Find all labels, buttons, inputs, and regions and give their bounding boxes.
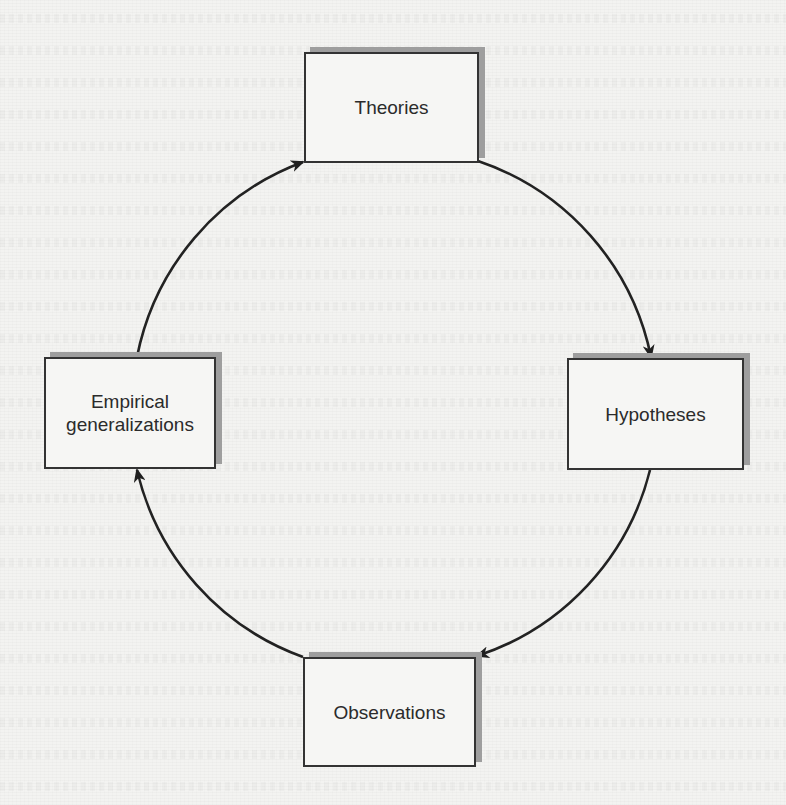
node-empirical-generalizations: Empirical generalizations <box>44 357 216 469</box>
arrow-empirical-to-theories <box>137 162 303 357</box>
node-hypotheses: Hypotheses <box>567 358 744 470</box>
node-theories-label: Theories <box>349 96 435 119</box>
node-observations: Observations <box>303 657 476 767</box>
arrow-hypotheses-to-observations <box>477 470 650 656</box>
node-theories: Theories <box>304 52 479 163</box>
node-hypotheses-label: Hypotheses <box>599 403 711 426</box>
node-empirical-label-line1: Empirical <box>85 390 175 413</box>
node-empirical-label-line2: generalizations <box>60 413 200 436</box>
arrow-theories-to-hypotheses <box>478 161 651 357</box>
arrow-observations-to-empirical <box>137 470 303 657</box>
node-observations-label: Observations <box>328 701 452 724</box>
